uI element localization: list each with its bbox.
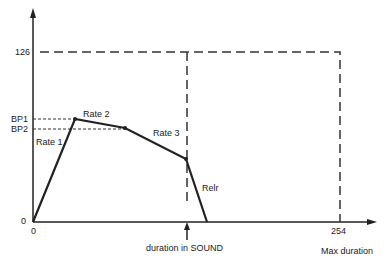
- tick-bp1: BP1: [11, 115, 28, 124]
- label-max-duration: Max duration: [321, 247, 373, 256]
- max-level-line: [40, 52, 340, 222]
- label-rate2: Rate 2: [83, 110, 110, 119]
- label-duration: duration in SOUND: [146, 244, 223, 253]
- tick-y-zero: 0: [21, 217, 26, 226]
- y-axis-arrow-icon: [30, 8, 36, 18]
- tick-254: 254: [331, 227, 346, 236]
- x-axis-arrow-icon: [367, 219, 377, 225]
- tick-126: 126: [15, 48, 30, 57]
- duration-arrow-icon: [184, 222, 190, 230]
- envelope-curve: [33, 119, 207, 222]
- tick-bp2: BP2: [11, 125, 28, 134]
- tick-x-zero: 0: [31, 227, 36, 236]
- label-rate1: Rate 1: [36, 138, 63, 147]
- label-rate3: Rate 3: [153, 129, 180, 138]
- label-release: Relr: [202, 184, 219, 193]
- envelope-diagram: [0, 0, 385, 264]
